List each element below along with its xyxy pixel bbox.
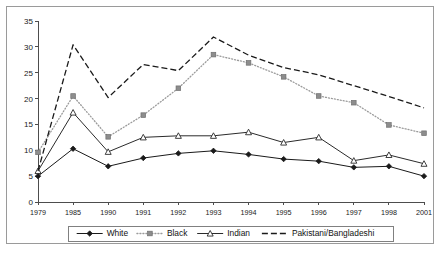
y-tick-label: 35 bbox=[24, 17, 33, 26]
x-tick-label: 1997 bbox=[346, 208, 362, 217]
data-point-marker bbox=[211, 148, 216, 153]
legend-label: Pakistani/Bangladeshi bbox=[292, 228, 375, 238]
x-tick-label: 1985 bbox=[65, 208, 81, 217]
y-tick-label: 10 bbox=[24, 146, 33, 155]
x-tick-label: 1995 bbox=[276, 208, 292, 217]
x-tick-label: 2001 bbox=[416, 208, 432, 217]
data-point-marker bbox=[351, 165, 356, 170]
x-tick-label: 1992 bbox=[170, 208, 186, 217]
data-point-marker bbox=[386, 152, 392, 158]
x-tick-label: 1994 bbox=[241, 208, 257, 217]
chart-legend: WhiteBlackIndianPakistani/Bangladeshi bbox=[69, 226, 394, 241]
data-point-marker bbox=[176, 86, 181, 91]
y-tick-label: 5 bbox=[29, 172, 34, 181]
data-point-marker bbox=[246, 152, 251, 157]
x-tick-label: 1990 bbox=[100, 208, 116, 217]
series-indian bbox=[35, 110, 427, 174]
data-point-marker bbox=[422, 131, 427, 136]
y-tick-label: 30 bbox=[24, 43, 33, 52]
y-tick-label: 15 bbox=[24, 120, 33, 129]
data-point-marker bbox=[316, 94, 321, 99]
x-tick-label: 1993 bbox=[205, 208, 221, 217]
data-point-marker bbox=[281, 75, 286, 80]
legend-label: White bbox=[107, 228, 129, 238]
x-axis-ticks: 1979198519901991199219931994199519961997… bbox=[30, 202, 432, 217]
plot-area: 05101520253035 1979198519901991199219931… bbox=[0, 0, 442, 258]
data-point-marker bbox=[176, 151, 181, 156]
data-point-marker bbox=[421, 173, 426, 178]
data-point-marker bbox=[281, 156, 286, 161]
x-tick-label: 1996 bbox=[311, 208, 327, 217]
y-tick-label: 0 bbox=[29, 198, 34, 207]
data-point-marker bbox=[105, 164, 110, 169]
x-tick-label: 1998 bbox=[381, 208, 397, 217]
chart-axes bbox=[38, 21, 424, 202]
data-point-marker bbox=[316, 158, 321, 163]
series-line bbox=[38, 113, 424, 171]
data-point-marker bbox=[211, 52, 216, 57]
data-point-marker bbox=[148, 231, 153, 236]
data-point-marker bbox=[352, 100, 357, 105]
y-axis-ticks: 05101520253035 bbox=[24, 17, 38, 207]
y-tick-label: 20 bbox=[24, 95, 33, 104]
legend-label: Indian bbox=[227, 228, 250, 238]
series-white bbox=[35, 146, 426, 179]
line-chart: 05101520253035 1979198519901991199219931… bbox=[0, 0, 442, 258]
data-point-marker bbox=[141, 155, 146, 160]
chart-series-group bbox=[35, 37, 427, 179]
series-line bbox=[38, 37, 424, 171]
data-point-marker bbox=[71, 94, 76, 99]
data-point-marker bbox=[386, 164, 391, 169]
y-tick-label: 25 bbox=[24, 69, 33, 78]
data-point-marker bbox=[70, 110, 76, 116]
data-point-marker bbox=[141, 113, 146, 118]
data-point-marker bbox=[246, 61, 251, 66]
data-point-marker bbox=[106, 135, 111, 140]
chart-figure: 05101520253035 1979198519901991199219931… bbox=[0, 0, 442, 258]
series-line bbox=[38, 149, 424, 176]
x-tick-label: 1979 bbox=[30, 208, 46, 217]
x-tick-label: 1991 bbox=[135, 208, 151, 217]
legend-label: Black bbox=[167, 228, 188, 238]
data-point-marker bbox=[36, 150, 41, 155]
data-point-marker bbox=[316, 134, 322, 140]
series-black bbox=[36, 52, 427, 154]
series-pakistani-bangladeshi bbox=[38, 37, 424, 171]
data-point-marker bbox=[387, 123, 392, 128]
